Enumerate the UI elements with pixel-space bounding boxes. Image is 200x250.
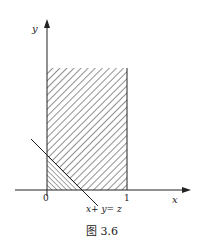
y-axis-arrow-icon [44,19,50,28]
x-axis-arrow-icon [182,187,191,193]
x-tick-0: 0 [43,194,49,203]
line-equation-label: x+ y= z [86,205,122,214]
figure-caption: 图 3.6 [86,226,118,237]
x-tick-1: 1 [124,194,130,203]
x-axis-label: x [172,195,178,205]
y-axis-label: y [32,24,38,34]
